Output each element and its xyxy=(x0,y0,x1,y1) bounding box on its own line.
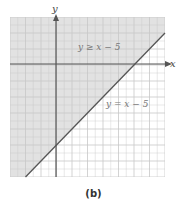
y-axis-label: y xyxy=(51,3,58,14)
line-label: y = x − 5 xyxy=(105,99,149,109)
figure-caption: (b) xyxy=(0,188,177,199)
grid xyxy=(10,17,165,177)
inequality-graph: x y y ≥ x − 5 y = x − 5 xyxy=(0,0,177,209)
region-label: y ≥ x − 5 xyxy=(77,42,121,52)
x-axis-label: x xyxy=(170,58,176,69)
